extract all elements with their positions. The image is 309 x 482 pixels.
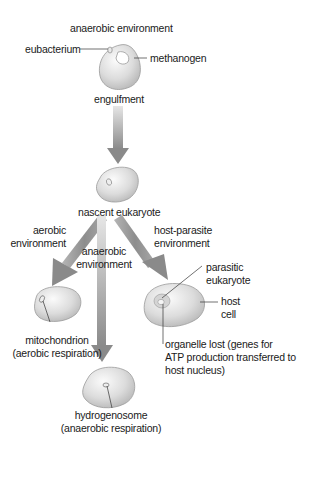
organelle-lost-line1: organelle lost (genes for <box>165 338 296 351</box>
host-cell-label: host cell <box>221 295 240 321</box>
hydrogenosome-cell <box>83 367 135 408</box>
nascent-eukaryote-label: nascent eukaryote <box>78 206 160 219</box>
anaerobic-branch-label: anaerobic environment <box>74 245 134 271</box>
nascent-eukaryote-cell <box>96 167 138 202</box>
hydrogenosome-line1: hydrogenosome <box>56 409 166 422</box>
host-parasite-environment-label: host-parasite environment <box>154 224 212 250</box>
organelle-lost-line2: ATP production transferred to <box>165 351 296 364</box>
mitochondrion-line2: (aerobic respiration) <box>2 347 112 360</box>
engulfment-arrow <box>107 106 129 164</box>
hydrogenosome-line2: (anaerobic respiration) <box>56 422 166 435</box>
anaerobic-branch-line2: environment <box>74 258 134 271</box>
mitochondrion-cell <box>35 287 81 322</box>
methanogen-label: methanogen <box>150 52 206 65</box>
hydrogenosome-label: hydrogenosome (anaerobic respiration) <box>56 409 166 435</box>
methanogen-cell <box>99 45 140 90</box>
parasitic-eukaryote-line1: parasitic <box>206 261 250 274</box>
host-cell-line2: cell <box>221 308 240 321</box>
host-parasite-line1: host-parasite <box>154 224 212 237</box>
host-cell <box>144 283 204 326</box>
aerobic-environment-line1: aerobic <box>8 224 66 237</box>
parasitic-eukaryote-line2: eukaryote <box>206 274 250 287</box>
aerobic-environment-label: aerobic environment <box>8 224 66 250</box>
host-parasite-line2: environment <box>154 237 212 250</box>
aerobic-environment-line2: environment <box>8 237 66 250</box>
parasitic-eukaryote-label: parasitic eukaryote <box>206 261 250 287</box>
organelle-lost-line3: host nucleus) <box>165 364 296 377</box>
mitochondrion-line1: mitochondrion <box>2 334 112 347</box>
mitochondrion-label: mitochondrion (aerobic respiration) <box>2 334 112 360</box>
anaerobic-environment-label: anaerobic environment <box>70 22 173 35</box>
host-cell-line1: host <box>221 295 240 308</box>
engulfment-label: engulfment <box>94 93 144 106</box>
anaerobic-branch-line1: anaerobic <box>74 245 134 258</box>
eubacterium-label: eubacterium <box>25 43 81 56</box>
organelle-lost-label: organelle lost (genes for ATP production… <box>165 338 296 377</box>
